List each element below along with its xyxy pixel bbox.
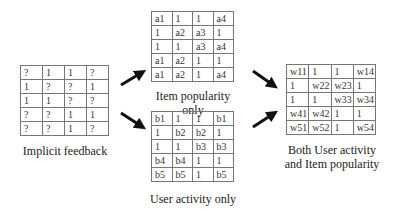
matrix-cell: 1 <box>193 112 214 126</box>
matrix-row: 1 1 w33 w34 <box>287 93 376 107</box>
matrix-cell: 1 <box>193 54 214 68</box>
matrix-row: 1 1 b3 b3 <box>152 140 234 154</box>
matrix-cell: ? <box>65 80 87 94</box>
matrix-cell: 1 <box>87 108 109 122</box>
matrix-row: a1 a2 1 1 <box>152 54 234 68</box>
matrix-cell: a1 <box>152 12 173 26</box>
matrix-cell: w33 <box>331 93 353 107</box>
matrix-cell: w14 <box>353 65 375 79</box>
matrix-cell: w54 <box>353 121 375 135</box>
matrix-cell: 1 <box>331 107 353 121</box>
arrow-user-activity-to-both <box>253 114 273 127</box>
matrix-cell: ? <box>43 80 65 94</box>
matrix-cell: 1 <box>331 65 353 79</box>
matrix-row: b4 b4 1 1 <box>152 154 234 168</box>
matrix-cell: 1 <box>193 154 214 168</box>
matrix-cell: 1 <box>172 112 193 126</box>
matrix-row: b5 b5 1 b5 <box>152 168 234 182</box>
both-caption-line1: Both User activity <box>280 143 384 157</box>
matrix-cell: 1 <box>193 68 214 82</box>
matrix-cell: 1 <box>21 94 43 108</box>
matrix-cell: 1 <box>331 121 353 135</box>
implicit-feedback-matrix: ? 1 1 ? 1 ? ? 1 1 1 ? ? ? ? 1 1 ? ? 1 ? <box>20 65 109 136</box>
matrix-cell: a1 <box>152 54 173 68</box>
matrix-cell: a4 <box>213 12 234 26</box>
matrix-row: ? ? 1 ? <box>21 122 109 136</box>
matrix-cell: 1 <box>213 26 234 40</box>
matrix-row: ? ? 1 1 <box>21 108 109 122</box>
matrix-cell: w41 <box>287 107 309 121</box>
matrix-row: ? 1 1 ? <box>21 66 109 80</box>
arrow-implicit-to-user-activity <box>121 113 141 126</box>
matrix-row: a1 1 1 a4 <box>152 12 234 26</box>
matrix-row: 1 a2 a3 1 <box>152 26 234 40</box>
matrix-cell: 1 <box>65 66 87 80</box>
matrix-cell: ? <box>65 94 87 108</box>
matrix-cell: a3 <box>193 26 214 40</box>
matrix-cell: b2 <box>193 126 214 140</box>
matrix-cell: b3 <box>193 140 214 154</box>
matrix-cell: w23 <box>331 79 353 93</box>
both-matrix: w11 1 1 w14 1 w22 w23 1 1 1 w33 w34 w41 … <box>286 64 376 135</box>
matrix-cell: 1 <box>21 80 43 94</box>
matrix-cell: 1 <box>193 12 214 26</box>
matrix-cell: 1 <box>43 94 65 108</box>
matrix-cell: a4 <box>213 40 234 54</box>
matrix-cell: 1 <box>287 93 309 107</box>
matrix-cell: b5 <box>213 168 234 182</box>
matrix-cell: b5 <box>172 168 193 182</box>
matrix-cell: 1 <box>353 107 375 121</box>
matrix-cell: b1 <box>213 112 234 126</box>
matrix-cell: 1 <box>309 65 331 79</box>
matrix-row: 1 1 a3 a4 <box>152 40 234 54</box>
matrix-row: 1 ? ? 1 <box>21 80 109 94</box>
matrix-cell: 1 <box>43 66 65 80</box>
matrix-cell: 1 <box>213 126 234 140</box>
matrix-cell: a3 <box>193 40 214 54</box>
matrix-cell: 1 <box>213 154 234 168</box>
matrix-cell: 1 <box>152 26 173 40</box>
both-caption-line2: and Item popularity <box>280 157 384 171</box>
matrix-cell: w11 <box>287 65 309 79</box>
matrix-row: w51 w52 1 w54 <box>287 121 376 135</box>
matrix-cell: a2 <box>172 26 193 40</box>
matrix-cell: 1 <box>152 140 173 154</box>
matrix-cell: ? <box>21 66 43 80</box>
user-activity-matrix: b1 1 1 b1 1 b2 b2 1 1 1 b3 b3 b4 b4 1 1 … <box>151 111 234 182</box>
matrix-cell: w22 <box>309 79 331 93</box>
matrix-cell: a4 <box>213 68 234 82</box>
matrix-row: b1 1 1 b1 <box>152 112 234 126</box>
matrix-cell: 1 <box>172 140 193 154</box>
matrix-cell: w42 <box>309 107 331 121</box>
matrix-cell: ? <box>43 122 65 136</box>
matrix-row: a1 a2 1 a4 <box>152 68 234 82</box>
matrix-cell: w52 <box>309 121 331 135</box>
matrix-cell: 1 <box>353 79 375 93</box>
matrix-cell: 1 <box>193 168 214 182</box>
matrix-cell: 1 <box>152 40 173 54</box>
matrix-cell: 1 <box>172 12 193 26</box>
matrix-row: w11 1 1 w14 <box>287 65 376 79</box>
matrix-cell: b5 <box>152 168 173 182</box>
matrix-cell: ? <box>43 108 65 122</box>
matrix-cell: w51 <box>287 121 309 135</box>
matrix-cell: ? <box>87 94 109 108</box>
matrix-cell: w34 <box>353 93 375 107</box>
matrix-cell: 1 <box>152 126 173 140</box>
matrix-cell: 1 <box>287 79 309 93</box>
matrix-cell: ? <box>21 122 43 136</box>
matrix-cell: b3 <box>213 140 234 154</box>
matrix-cell: 1 <box>309 93 331 107</box>
matrix-row: 1 1 ? ? <box>21 94 109 108</box>
matrix-cell: 1 <box>87 80 109 94</box>
matrix-cell: ? <box>87 122 109 136</box>
matrix-cell: 1 <box>172 40 193 54</box>
matrix-cell: b4 <box>152 154 173 168</box>
user-activity-caption: User activity only <box>148 192 238 206</box>
matrix-row: 1 b2 b2 1 <box>152 126 234 140</box>
item-popularity-matrix: a1 1 1 a4 1 a2 a3 1 1 1 a3 a4 a1 a2 1 1 … <box>151 11 234 82</box>
matrix-cell: b2 <box>172 126 193 140</box>
matrix-row: 1 w22 w23 1 <box>287 79 376 93</box>
matrix-cell: ? <box>87 66 109 80</box>
matrix-cell: b1 <box>152 112 173 126</box>
